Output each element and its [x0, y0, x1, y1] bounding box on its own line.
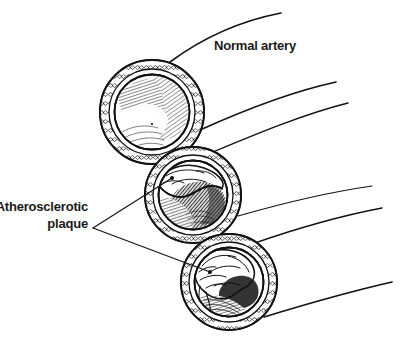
- illustration-canvas: Normal artery Atherosclerotic plaque: [0, 0, 412, 357]
- leader-dot-moderate: [170, 176, 174, 180]
- leader-dot-severe: [208, 270, 212, 274]
- label-normal-artery: Normal artery: [214, 38, 297, 53]
- label-plaque-line2: plaque: [47, 216, 88, 231]
- label-plaque-line1: Atherosclerotic: [0, 199, 88, 214]
- artery-illustration-figure: Normal artery Atherosclerotic plaque: [0, 0, 412, 357]
